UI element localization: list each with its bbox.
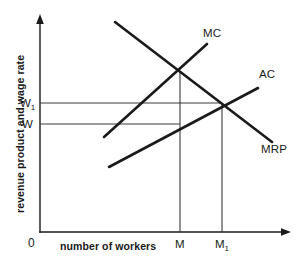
ac-curve [109, 88, 258, 167]
x-tick-label-group: M M1 [175, 238, 230, 253]
monopsony-labour-market-chart: MC AC MRP W1 W M M1 0 number of workers [0, 0, 301, 260]
y-axis-title: revenue product and wage rate [14, 55, 26, 213]
x-tick-label-m1: M1 [215, 238, 230, 253]
curve-label-group: MC AC MRP [203, 27, 287, 155]
economics-diagram: MC AC MRP W1 W M M1 0 number of workers [0, 0, 301, 260]
x-axis-title: number of workers [60, 240, 156, 252]
origin-label: 0 [28, 236, 35, 250]
curve-group [104, 22, 272, 167]
guide-line-group [40, 72, 222, 232]
mrp-curve-label: MRP [261, 143, 287, 155]
axis-group [36, 14, 291, 236]
x-tick-label-m: M [175, 238, 185, 250]
y-axis-arrow-icon [36, 14, 44, 24]
mc-curve-label: MC [203, 27, 221, 39]
x-axis-arrow-icon [281, 228, 291, 236]
ac-curve-label: AC [259, 68, 275, 80]
